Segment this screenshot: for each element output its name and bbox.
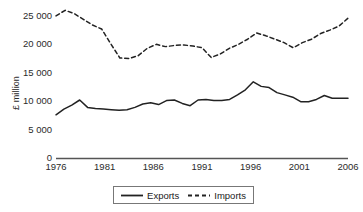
- chart-legend: Exports Imports: [113, 186, 254, 204]
- series-line-imports: [56, 10, 348, 58]
- legend-entry-exports: Exports: [121, 190, 179, 201]
- legend-swatch-imports-dashed: [188, 192, 210, 199]
- line-chart: £ million 05 00010 00015 00020 00025 000…: [0, 0, 363, 212]
- legend-swatch-exports-solid: [121, 192, 143, 199]
- plot-area: [0, 0, 363, 212]
- series-line-exports: [56, 82, 348, 115]
- legend-label-exports: Exports: [147, 190, 179, 201]
- legend-entry-imports: Imports: [188, 190, 246, 201]
- legend-label-imports: Imports: [214, 190, 246, 201]
